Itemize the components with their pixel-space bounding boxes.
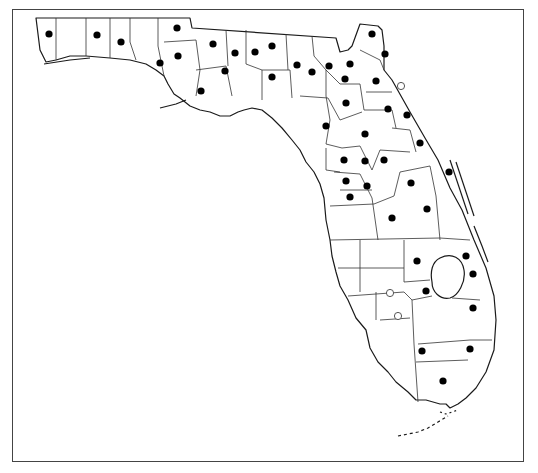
filled-dot <box>342 177 349 184</box>
filled-dot <box>221 67 228 74</box>
filled-dot <box>342 99 349 106</box>
filled-dot <box>308 68 315 75</box>
state-outline <box>36 18 496 436</box>
filled-dot <box>340 156 347 163</box>
open-dot <box>394 312 401 319</box>
filled-dot <box>422 287 429 294</box>
filled-dot <box>368 30 375 37</box>
open-dot <box>397 82 404 89</box>
filled-dot <box>293 61 300 68</box>
filled-dot <box>445 168 452 175</box>
filled-dot <box>380 156 387 163</box>
florida-county-map <box>0 0 538 473</box>
filled-dot <box>346 193 353 200</box>
filled-dot <box>384 105 391 112</box>
filled-dot <box>469 304 476 311</box>
open-dot <box>386 289 393 296</box>
filled-dots <box>45 24 476 384</box>
filled-dot <box>346 60 353 67</box>
filled-dot <box>117 38 124 45</box>
filled-dot <box>197 87 204 94</box>
filled-dot <box>416 139 423 146</box>
filled-dot <box>93 31 100 38</box>
filled-dot <box>209 40 216 47</box>
filled-dot <box>466 345 473 352</box>
filled-dot <box>45 30 52 37</box>
open-dots <box>386 82 404 319</box>
filled-dot <box>418 347 425 354</box>
filled-dot <box>231 49 238 56</box>
filled-dot <box>325 62 332 69</box>
filled-dot <box>322 122 329 129</box>
filled-dot <box>388 214 395 221</box>
filled-dot <box>363 182 370 189</box>
filled-dot <box>174 52 181 59</box>
filled-dot <box>439 377 446 384</box>
filled-dot <box>156 59 163 66</box>
filled-dot <box>251 48 258 55</box>
filled-dot <box>462 252 469 259</box>
filled-dot <box>423 205 430 212</box>
filled-dot <box>381 50 388 57</box>
filled-dot <box>372 77 379 84</box>
filled-dot <box>268 42 275 49</box>
filled-dot <box>173 24 180 31</box>
filled-dot <box>469 270 476 277</box>
filled-dot <box>407 179 414 186</box>
filled-dot <box>403 111 410 118</box>
filled-dot <box>268 73 275 80</box>
filled-dot <box>361 130 368 137</box>
filled-dot <box>413 257 420 264</box>
filled-dot <box>341 75 348 82</box>
filled-dot <box>361 157 368 164</box>
